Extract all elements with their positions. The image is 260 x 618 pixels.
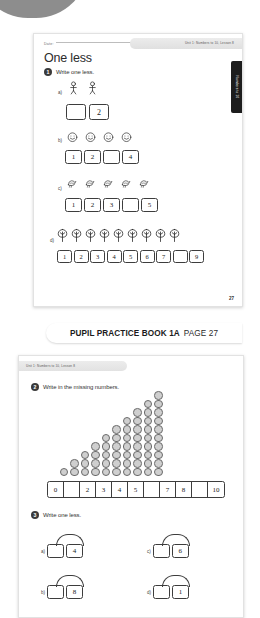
- pair-c[interactable]: c)6: [147, 544, 191, 558]
- cube-unit: [81, 468, 90, 477]
- arc-connector-icon: [56, 575, 84, 587]
- cube-staircase-chart: [19, 404, 243, 476]
- tree-icon: [112, 228, 125, 243]
- row-d-answer-boxes[interactable]: 12345679: [57, 250, 206, 263]
- staircase-column: [102, 434, 111, 477]
- number-box[interactable]: 1: [65, 198, 82, 212]
- unit-lesson-text-2: Unit 1: Numbers to 10, Lesson 8: [26, 364, 75, 368]
- number-box[interactable]: 2: [74, 250, 89, 263]
- cube-unit: [112, 442, 121, 451]
- track-cell[interactable]: 8: [176, 482, 192, 497]
- number-track[interactable]: 023457810: [47, 481, 225, 498]
- number-box[interactable]: 2: [84, 198, 101, 212]
- cube-unit: [154, 442, 163, 451]
- question-1-heading: 1 Write one less.: [44, 68, 94, 76]
- track-cell[interactable]: 7: [160, 482, 176, 497]
- cube-unit: [91, 451, 100, 460]
- pair-boxes[interactable]: 1: [153, 585, 191, 599]
- cube-unit: [133, 442, 142, 451]
- row-c-label: c): [58, 186, 62, 191]
- number-box[interactable]: 9: [189, 250, 204, 263]
- pair-boxes[interactable]: 4: [47, 544, 85, 558]
- question-2-badge: 2: [31, 383, 39, 391]
- answer-box-empty[interactable]: [153, 585, 170, 599]
- question-1-text: Write one less.: [56, 69, 94, 75]
- track-cell[interactable]: 5: [128, 482, 144, 497]
- track-cell[interactable]: 0: [48, 482, 64, 497]
- pair-b[interactable]: b)8: [41, 585, 85, 599]
- track-cell-empty[interactable]: [64, 482, 80, 497]
- cube-unit: [123, 459, 132, 468]
- number-box[interactable]: 5: [141, 198, 158, 212]
- bird-icon: [83, 178, 97, 190]
- answer-box-empty[interactable]: [173, 250, 188, 263]
- number-box[interactable]: 3: [103, 198, 120, 212]
- pair-boxes[interactable]: 6: [153, 544, 191, 558]
- number-box[interactable]: 8: [66, 585, 83, 599]
- row-b-answer-boxes[interactable]: 124: [65, 150, 141, 164]
- number-box[interactable]: 4: [66, 544, 83, 558]
- cube-unit: [144, 459, 153, 468]
- cube-unit: [102, 459, 111, 468]
- number-box[interactable]: 5: [123, 250, 138, 263]
- unit-side-tab: Numbers to 10: [231, 61, 242, 113]
- cube-unit: [112, 459, 121, 468]
- answer-box-empty[interactable]: [47, 585, 64, 599]
- number-box[interactable]: 4: [122, 150, 139, 164]
- row-b-icons: [66, 132, 133, 145]
- number-box[interactable]: 3: [90, 250, 105, 263]
- cube-unit: [144, 442, 153, 451]
- cube-unit: [144, 434, 153, 443]
- track-cell[interactable]: 10: [208, 482, 224, 497]
- number-box[interactable]: 2: [89, 104, 109, 120]
- number-box[interactable]: 2: [84, 150, 101, 164]
- staircase-column: [112, 425, 121, 476]
- answer-box-empty[interactable]: [153, 544, 170, 558]
- pair-boxes[interactable]: 8: [47, 585, 85, 599]
- cube-unit: [154, 451, 163, 460]
- smiley-face-icon: [66, 132, 79, 145]
- cube-unit: [60, 468, 69, 477]
- cube-unit: [154, 400, 163, 409]
- cube-unit: [102, 434, 111, 443]
- row-a-answer-boxes[interactable]: 2: [66, 104, 112, 120]
- staircase-column: [144, 400, 153, 477]
- cube-unit: [144, 451, 153, 460]
- number-box[interactable]: 1: [172, 585, 189, 599]
- row-c-answer-boxes[interactable]: 1235: [65, 198, 160, 212]
- cube-unit: [144, 400, 153, 409]
- cube-unit: [154, 459, 163, 468]
- answer-box-empty[interactable]: [122, 198, 139, 212]
- track-cell[interactable]: 3: [96, 482, 112, 497]
- staircase-column: [60, 468, 69, 477]
- answer-box-empty[interactable]: [103, 150, 120, 164]
- track-cell-empty[interactable]: [192, 482, 208, 497]
- cube-unit: [123, 451, 132, 460]
- decorative-blob: [0, 0, 88, 18]
- number-box[interactable]: 1: [57, 250, 72, 263]
- tree-icon: [98, 228, 111, 243]
- bird-icon: [137, 178, 151, 190]
- answer-box-empty[interactable]: [66, 104, 86, 120]
- number-box[interactable]: 6: [140, 250, 155, 263]
- cube-unit: [154, 391, 163, 400]
- cube-unit: [102, 468, 111, 477]
- arc-connector-icon: [162, 534, 190, 546]
- pair-label: d): [147, 590, 151, 595]
- unit-lesson-tag: Unit 1: Numbers to 10, Lesson 8: [130, 38, 242, 49]
- number-box[interactable]: 6: [172, 544, 189, 558]
- pair-d[interactable]: d)1: [147, 585, 191, 599]
- number-box[interactable]: 1: [65, 150, 82, 164]
- cube-unit: [112, 451, 121, 460]
- caption-book-title: PUPIL PRACTICE BOOK 1A: [70, 329, 180, 338]
- pair-a[interactable]: a)4: [41, 544, 85, 558]
- cube-unit: [112, 425, 121, 434]
- question-3-heading: 3 Write one less.: [31, 511, 81, 519]
- answer-box-empty[interactable]: [47, 544, 64, 558]
- number-box[interactable]: 4: [107, 250, 122, 263]
- number-box[interactable]: 7: [156, 250, 171, 263]
- track-cell[interactable]: 2: [80, 482, 96, 497]
- track-cell[interactable]: 4: [112, 482, 128, 497]
- cube-unit: [102, 451, 111, 460]
- track-cell-empty[interactable]: [144, 482, 160, 497]
